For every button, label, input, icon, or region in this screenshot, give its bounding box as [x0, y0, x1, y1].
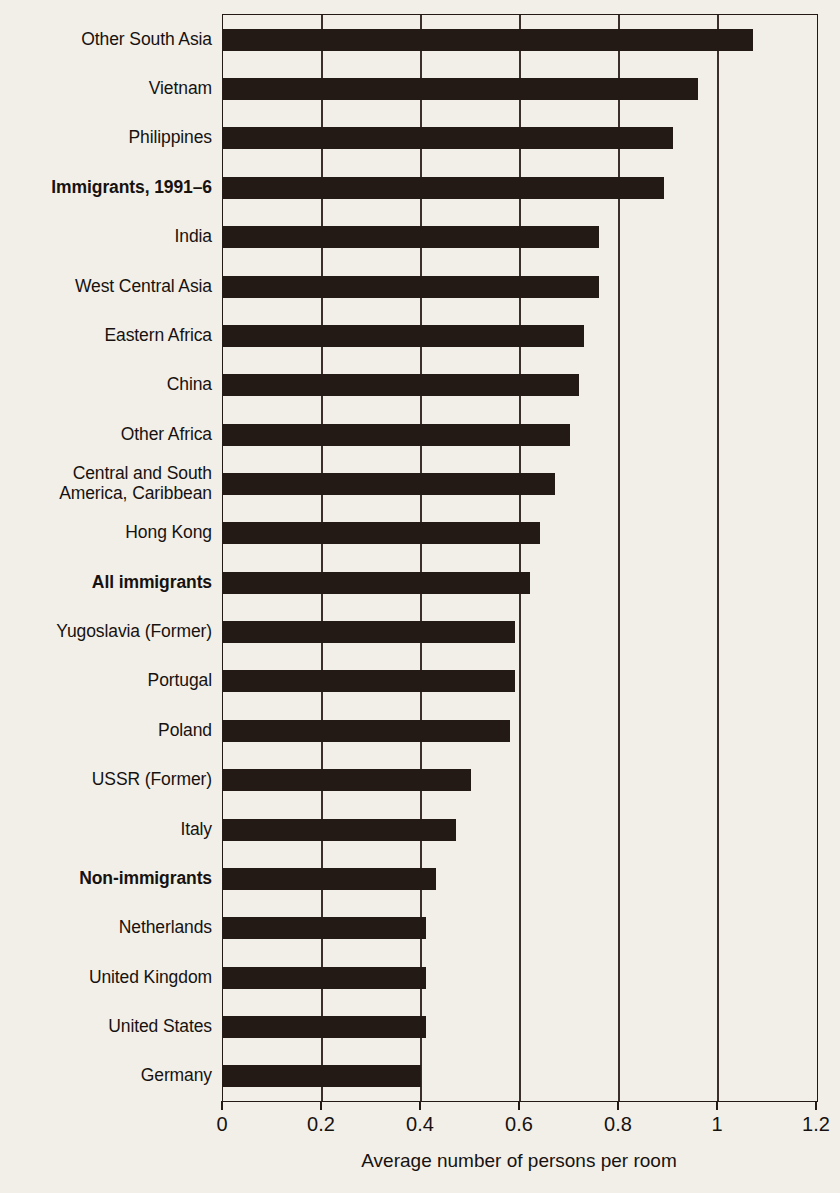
x-axis-title: Average number of persons per room — [222, 1150, 816, 1172]
x-axis-tick-labels: 00.20.40.60.811.2 — [0, 1113, 840, 1143]
bar — [223, 670, 515, 692]
bar — [223, 522, 540, 544]
category-label: Germany — [0, 1065, 212, 1085]
category-label: Immigrants, 1991–6 — [0, 177, 212, 197]
tick-mark — [221, 1101, 222, 1110]
tick-mark — [320, 1101, 321, 1110]
bar — [223, 374, 579, 396]
category-label: Other Africa — [0, 424, 212, 444]
category-label: Italy — [0, 819, 212, 839]
x-tick-label: 0.2 — [307, 1113, 335, 1136]
bar — [223, 226, 599, 248]
category-label: China — [0, 374, 212, 394]
bar — [223, 424, 570, 446]
category-label: All immigrants — [0, 572, 212, 592]
category-label: United States — [0, 1016, 212, 1036]
x-tick-label: 0.4 — [406, 1113, 434, 1136]
category-label: USSR (Former) — [0, 769, 212, 789]
category-label: Philippines — [0, 127, 212, 147]
bar — [223, 868, 436, 890]
bar — [223, 819, 456, 841]
bar — [223, 276, 599, 298]
category-label: Other South Asia — [0, 29, 212, 49]
bar — [223, 1065, 421, 1087]
bar — [223, 917, 426, 939]
bar — [223, 572, 530, 594]
category-label: Central and South America, Caribbean — [0, 463, 212, 503]
bar-series — [223, 15, 817, 1101]
x-tick-label: 0.8 — [604, 1113, 632, 1136]
category-label: Poland — [0, 720, 212, 740]
x-tick-label: 1.2 — [802, 1113, 830, 1136]
category-label: Vietnam — [0, 78, 212, 98]
tick-mark — [518, 1101, 519, 1110]
tick-mark — [419, 1101, 420, 1110]
category-label-column: Other South AsiaVietnamPhilippinesImmigr… — [0, 14, 212, 1100]
bar — [223, 78, 698, 100]
category-label: Netherlands — [0, 917, 212, 937]
category-label: Hong Kong — [0, 522, 212, 542]
plot-area — [222, 14, 818, 1102]
bar — [223, 1016, 426, 1038]
bar — [223, 769, 471, 791]
tick-mark — [617, 1101, 618, 1110]
category-label: United Kingdom — [0, 967, 212, 987]
bar — [223, 29, 753, 51]
category-label: Yugoslavia (Former) — [0, 621, 212, 641]
bar — [223, 621, 515, 643]
bar — [223, 325, 584, 347]
bar — [223, 967, 426, 989]
category-label: Eastern Africa — [0, 325, 212, 345]
chart-page: Other South AsiaVietnamPhilippinesImmigr… — [0, 0, 840, 1193]
x-axis-tick-marks — [222, 1101, 816, 1111]
x-tick-label: 0.6 — [505, 1113, 533, 1136]
tick-mark — [716, 1101, 717, 1110]
category-label: Portugal — [0, 670, 212, 690]
x-tick-label: 1 — [711, 1113, 722, 1136]
category-label: India — [0, 226, 212, 246]
category-label: Non-immigrants — [0, 868, 212, 888]
bar — [223, 473, 555, 495]
tick-mark — [815, 1101, 816, 1110]
bar — [223, 127, 673, 149]
x-tick-label: 0 — [216, 1113, 227, 1136]
category-label: West Central Asia — [0, 276, 212, 296]
bar — [223, 720, 510, 742]
bar — [223, 177, 664, 199]
